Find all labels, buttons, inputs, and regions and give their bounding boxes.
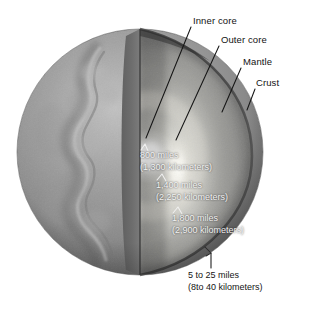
measurement-inner-core-miles: 800 miles — [140, 150, 212, 162]
label-crust: Crust — [256, 77, 279, 88]
measurement-mantle-kilometers: (2,900 kilometers) — [172, 225, 244, 237]
label-outer-core: Outer core — [221, 34, 267, 45]
label-inner-core: Inner core — [193, 15, 237, 26]
measurement-mantle-miles: 1,800 miles — [172, 213, 244, 225]
measurement-outer-core-kilometers: (2,250 kilometers) — [156, 192, 228, 204]
earth-interior-diagram: Inner core Outer core Mantle Crust 800 m… — [0, 0, 310, 310]
measurement-inner-core: 800 miles (1,300 kilometers) — [140, 150, 212, 173]
label-mantle: Mantle — [243, 56, 272, 67]
measurement-crust-miles: 5 to 25 miles — [188, 270, 263, 282]
measurement-mantle: 1,800 miles (2,900 kilometers) — [172, 213, 244, 236]
measurement-crust: 5 to 25 miles (8to 40 kilometers) — [188, 270, 263, 293]
measurement-outer-core-miles: 1,400 miles — [156, 180, 228, 192]
measurement-inner-core-kilometers: (1,300 kilometers) — [140, 162, 212, 174]
measurement-outer-core: 1,400 miles (2,250 kilometers) — [156, 180, 228, 203]
measurement-crust-kilometers: (8to 40 kilometers) — [188, 282, 263, 294]
